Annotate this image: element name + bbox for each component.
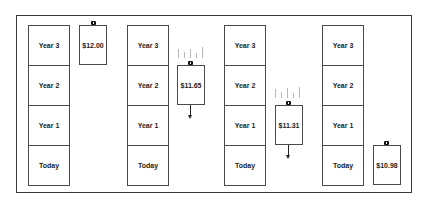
year-column-4: Year 3 Year 2 Year 1 Today [322,25,364,186]
cell-year-2: Year 2 [29,66,69,106]
year-column-1: Year 3 Year 2 Year 1 Today [28,25,70,186]
cell-year-1: Year 1 [128,106,168,146]
cell-year-3: Year 3 [128,26,168,66]
rain-icon [178,46,204,58]
year-column-3: Year 3 Year 2 Year 1 Today [224,25,266,186]
down-arrow-icon [190,105,191,116]
cell-year-3: Year 3 [323,26,363,66]
cell-year-2: Year 2 [323,66,363,106]
price-box-1: $12.00 [79,25,107,65]
cell-year-3: Year 3 [225,26,265,66]
cell-today: Today [29,146,69,185]
cell-year-3: Year 3 [29,26,69,66]
down-arrow-icon [288,145,289,156]
price-box-3: $11.31 [275,105,303,145]
price-box-4: $10.98 [373,145,401,185]
rain-icon [275,86,301,98]
price-box-2: $11.65 [177,65,205,105]
cell-year-1: Year 1 [323,106,363,146]
cell-year-1: Year 1 [29,106,69,146]
cell-today: Today [323,146,363,185]
year-column-2: Year 3 Year 2 Year 1 Today [127,25,169,186]
cell-year-2: Year 2 [225,66,265,106]
cell-today: Today [225,146,265,185]
cell-today: Today [128,146,168,185]
cell-year-1: Year 1 [225,106,265,146]
cell-year-2: Year 2 [128,66,168,106]
